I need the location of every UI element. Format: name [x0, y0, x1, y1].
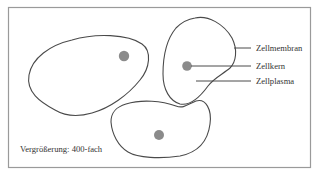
cell-diagram: Zellmembran Zellkern Zellplasma Vergröße…	[0, 0, 317, 175]
cell-nucleus	[119, 51, 129, 61]
label-cytoplasm: Zellplasma	[256, 76, 294, 86]
label-nucleus: Zellkern	[256, 61, 286, 71]
label-membrane: Zellmembran	[256, 43, 303, 53]
cell-nucleus	[154, 130, 164, 140]
cell-nucleus	[182, 61, 192, 71]
magnification-caption: Vergrößerung: 400-fach	[20, 144, 103, 154]
